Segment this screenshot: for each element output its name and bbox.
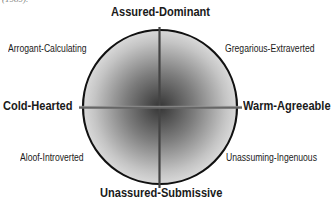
quadrant-label-bottom-right: Unassuming-Ingenuous <box>226 151 317 163</box>
quadrant-label-top-left: Arrogant-Calculating <box>8 42 86 54</box>
quadrant-label-bottom-left: Aloof-Introverted <box>20 151 84 163</box>
axis-label-top: Assured-Dominant <box>111 4 210 19</box>
quadrant-label-top-right: Gregarious-Extraverted <box>225 42 314 54</box>
axis-label-left: Cold-Hearted <box>3 98 73 113</box>
axis-label-right: Warm-Agreeable <box>243 98 331 113</box>
axis-label-bottom: Unassured-Submissive <box>100 185 222 200</box>
